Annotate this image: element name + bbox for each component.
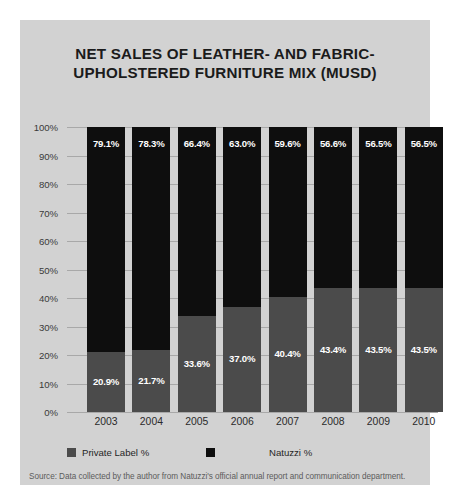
- bar-segment-natuzzi[interactable]: 56.6%: [314, 127, 352, 288]
- bar-value-label-private-label: 43.5%: [359, 344, 397, 355]
- y-axis-tick-label: 80%: [24, 179, 58, 190]
- x-axis-tick-label-2008: 2008: [314, 416, 352, 427]
- bar-segment-natuzzi[interactable]: 63.0%: [223, 127, 261, 307]
- legend-item-natuzzi[interactable]: Natuzzi %: [206, 444, 312, 460]
- bar-2006[interactable]: 37.0%63.0%: [223, 127, 261, 412]
- legend-swatch-icon: [206, 448, 215, 457]
- source-note: Source: Data collected by the author fro…: [29, 472, 429, 481]
- bar-value-label-private-label: 40.4%: [269, 348, 307, 359]
- bar-segment-private-label[interactable]: 20.9%: [87, 352, 125, 412]
- bar-segment-private-label[interactable]: 43.4%: [314, 288, 352, 412]
- bar-segment-natuzzi[interactable]: 59.6%: [269, 127, 307, 297]
- y-axis-tick-label: 50%: [24, 264, 58, 275]
- bar-value-label-private-label: 43.4%: [314, 344, 352, 355]
- y-axis-tick-label: 60%: [24, 236, 58, 247]
- bar-segment-private-label[interactable]: 43.5%: [405, 288, 443, 412]
- y-axis-tick-label: 10%: [24, 378, 58, 389]
- bar-value-label-natuzzi: 59.6%: [269, 138, 307, 149]
- bar-value-label-natuzzi: 56.5%: [359, 138, 397, 149]
- x-axis-tick-label-2007: 2007: [269, 416, 307, 427]
- bar-2008[interactable]: 43.4%56.6%: [314, 127, 352, 412]
- gridline: [67, 412, 438, 413]
- legend-label: Private Label %: [82, 447, 149, 458]
- bar-segment-private-label[interactable]: 37.0%: [223, 307, 261, 412]
- y-axis-tick-label: 40%: [24, 293, 58, 304]
- x-axis-tick-label-2005: 2005: [178, 416, 216, 427]
- bar-segment-private-label[interactable]: 21.7%: [132, 350, 170, 412]
- chart-title-line-2: UPHOLSTERED FURNITURE MIX (MUSD): [20, 63, 430, 82]
- x-axis-tick-label-2009: 2009: [359, 416, 397, 427]
- bar-2003[interactable]: 20.9%79.1%: [87, 127, 125, 412]
- y-axis-tick-label: 30%: [24, 321, 58, 332]
- y-axis-tick-label: 90%: [24, 150, 58, 161]
- bar-value-label-natuzzi: 63.0%: [223, 138, 261, 149]
- bar-segment-natuzzi[interactable]: 79.1%: [87, 127, 125, 352]
- bar-value-label-natuzzi: 78.3%: [132, 138, 170, 149]
- bar-2010[interactable]: 43.5%56.5%: [405, 127, 443, 412]
- y-axis-tick-label: 0%: [24, 407, 58, 418]
- x-axis-tick-label-2010: 2010: [405, 416, 443, 427]
- y-axis-tick-label: 20%: [24, 350, 58, 361]
- x-axis-tick-label-2004: 2004: [132, 416, 170, 427]
- bar-2004[interactable]: 21.7%78.3%: [132, 127, 170, 412]
- bar-2007[interactable]: 40.4%59.6%: [269, 127, 307, 412]
- bar-segment-private-label[interactable]: 43.5%: [359, 288, 397, 412]
- bar-value-label-natuzzi: 56.6%: [314, 138, 352, 149]
- legend-label: Natuzzi %: [269, 447, 312, 458]
- bar-segment-natuzzi[interactable]: 78.3%: [132, 127, 170, 350]
- x-axis-tick-label-2006: 2006: [223, 416, 261, 427]
- bar-segment-natuzzi[interactable]: 56.5%: [405, 127, 443, 288]
- chart-panel: NET SALES OF LEATHER- AND FABRIC- UPHOLS…: [20, 20, 430, 485]
- bar-value-label-private-label: 20.9%: [87, 376, 125, 387]
- bar-value-label-private-label: 33.6%: [178, 358, 216, 369]
- bar-value-label-private-label: 37.0%: [223, 353, 261, 364]
- chart-legend: Private Label %Natuzzi %: [67, 444, 407, 460]
- y-axis-tick-label: 100%: [24, 122, 58, 133]
- bar-segment-private-label[interactable]: 40.4%: [269, 297, 307, 412]
- chart-title: NET SALES OF LEATHER- AND FABRIC- UPHOLS…: [20, 44, 430, 82]
- bar-value-label-natuzzi: 66.4%: [178, 138, 216, 149]
- x-axis: 20032004200520062007200820092010: [67, 416, 438, 434]
- y-axis-tick-label: 70%: [24, 207, 58, 218]
- x-axis-tick-label-2003: 2003: [87, 416, 125, 427]
- bar-value-label-natuzzi: 56.5%: [405, 138, 443, 149]
- bar-segment-private-label[interactable]: 33.6%: [178, 316, 216, 412]
- bar-segment-natuzzi[interactable]: 66.4%: [178, 127, 216, 316]
- legend-swatch-icon: [67, 448, 76, 457]
- bar-2009[interactable]: 43.5%56.5%: [359, 127, 397, 412]
- bar-value-label-private-label: 21.7%: [132, 375, 170, 386]
- bar-value-label-natuzzi: 79.1%: [87, 138, 125, 149]
- y-axis: 100%90%80%70%60%50%40%30%20%10%0%: [20, 127, 58, 412]
- legend-item-private-label[interactable]: Private Label %: [67, 444, 149, 460]
- chart-title-line-1: NET SALES OF LEATHER- AND FABRIC-: [20, 44, 430, 63]
- bar-segment-natuzzi[interactable]: 56.5%: [359, 127, 397, 288]
- plot-area: 20.9%79.1%21.7%78.3%33.6%66.4%37.0%63.0%…: [67, 127, 438, 412]
- bar-2005[interactable]: 33.6%66.4%: [178, 127, 216, 412]
- bar-value-label-private-label: 43.5%: [405, 344, 443, 355]
